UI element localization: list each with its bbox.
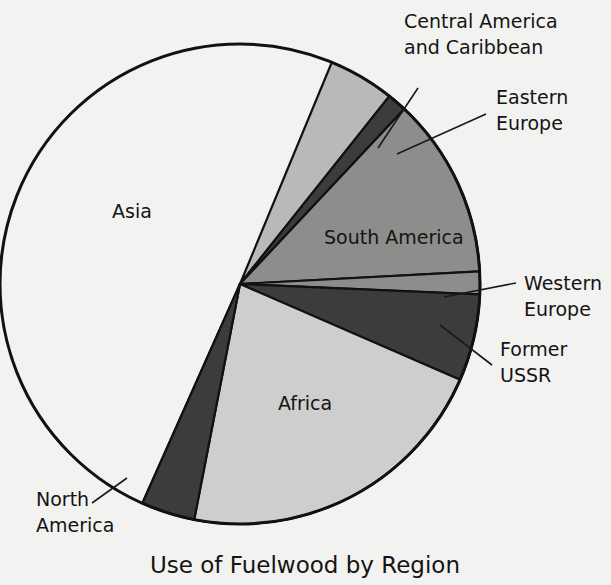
callout-label-western-europe-line2: Europe xyxy=(524,298,591,320)
pie-chart-page: Asia South America Africa Central Americ… xyxy=(0,0,611,585)
callout-label-north-america-line2: America xyxy=(36,514,114,536)
leader-line-north-america xyxy=(92,478,127,503)
callout-label-former-ussr-line2: USSR xyxy=(500,364,551,386)
slice-label-asia: Asia xyxy=(112,200,152,222)
callout-label-eastern-europe-line2: Europe xyxy=(496,112,563,134)
callout-label-central-america-line2: and Caribbean xyxy=(404,36,543,58)
fuelwood-pie-chart: Asia South America Africa Central Americ… xyxy=(0,0,611,585)
slice-label-south-america: South America xyxy=(324,226,464,248)
callout-label-former-ussr-line1: Former xyxy=(500,338,568,360)
callout-label-central-america-line1: Central America xyxy=(404,10,558,32)
callout-label-north-america-line1: North xyxy=(36,488,89,510)
slice-label-africa: Africa xyxy=(278,392,332,414)
callout-label-eastern-europe-line1: Eastern xyxy=(496,86,568,108)
chart-title: Use of Fuelwood by Region xyxy=(150,552,460,578)
callout-label-western-europe-line1: Western xyxy=(524,272,602,294)
pie-slices-group xyxy=(142,62,480,524)
